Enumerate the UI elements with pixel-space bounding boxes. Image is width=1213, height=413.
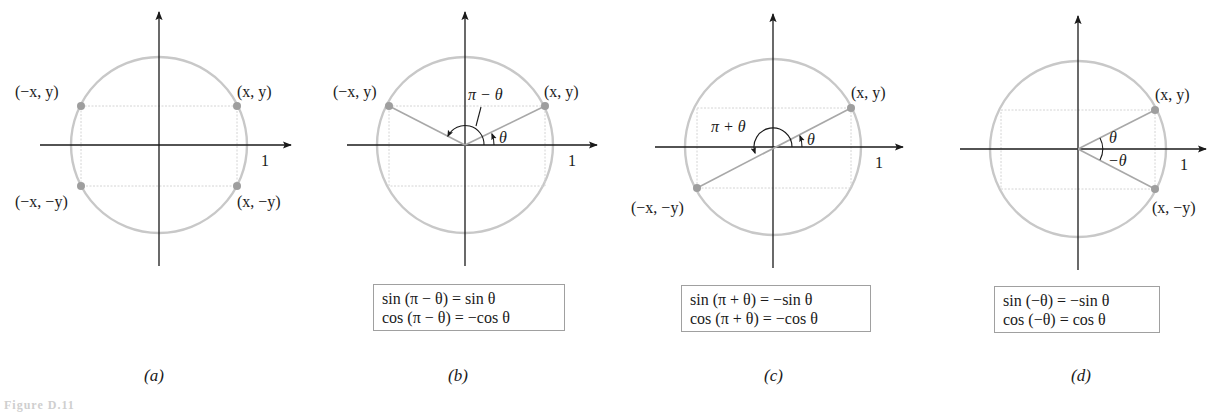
label-q3: (−x, −y) bbox=[631, 199, 684, 217]
panel-label-a: (a) bbox=[144, 366, 164, 386]
figure-caption: Figure D.11 bbox=[4, 398, 75, 413]
identity-sin: sin (π + θ) = −sin θ bbox=[690, 290, 862, 309]
point-q4 bbox=[233, 182, 241, 190]
sum-label: π + θ bbox=[711, 118, 746, 135]
axis-unit-label: 1 bbox=[568, 152, 576, 169]
panel-a: (x, y) (−x, y) (−x, −y) (x, −y) 1 bbox=[15, 12, 291, 266]
identity-box-d: sin (−θ) = −sin θ cos (−θ) = cos θ bbox=[994, 286, 1160, 333]
label-q4: (x, −y) bbox=[1152, 199, 1196, 217]
label-q2: (−x, y) bbox=[333, 83, 377, 101]
supplement-arc bbox=[448, 125, 484, 145]
theta-arc bbox=[492, 134, 494, 145]
point-q3 bbox=[693, 184, 701, 192]
identity-sin: sin (−θ) = −sin θ bbox=[1003, 291, 1151, 310]
identity-box-b: sin (π − θ) = sin θ cos (π − θ) = −cos θ bbox=[373, 284, 565, 331]
label-q3: (−x, −y) bbox=[15, 193, 68, 211]
identity-cos: cos (π + θ) = −cos θ bbox=[690, 309, 862, 328]
label-q4: (x, −y) bbox=[237, 193, 281, 211]
identity-sin: sin (π − θ) = sin θ bbox=[382, 289, 556, 308]
label-q1: (x, y) bbox=[544, 83, 579, 101]
label-q2: (−x, y) bbox=[15, 83, 59, 101]
axis-unit-label: 1 bbox=[261, 152, 269, 169]
panel-d: θ −θ (x, y) (x, −y) 1 bbox=[960, 16, 1206, 270]
axis-unit-label: 1 bbox=[1180, 156, 1188, 173]
point-q4 bbox=[1151, 185, 1159, 193]
theta-label: θ bbox=[807, 131, 815, 148]
supplement-label: π − θ bbox=[468, 86, 503, 103]
supplement-pointer bbox=[476, 107, 481, 126]
label-q1: (x, y) bbox=[851, 84, 886, 102]
panel-label-c: (c) bbox=[764, 366, 783, 386]
point-q3 bbox=[77, 182, 85, 190]
point-q2 bbox=[77, 102, 85, 110]
point-q2 bbox=[385, 102, 393, 110]
label-q1: (x, y) bbox=[1155, 86, 1190, 104]
point-q1 bbox=[233, 102, 241, 110]
identity-box-c: sin (π + θ) = −sin θ cos (π + θ) = −cos … bbox=[681, 285, 871, 332]
identity-cos: cos (π − θ) = −cos θ bbox=[382, 308, 556, 327]
identity-cos: cos (−θ) = cos θ bbox=[1003, 310, 1151, 329]
point-q1 bbox=[1151, 106, 1159, 114]
neg-theta-label: −θ bbox=[1108, 152, 1127, 169]
panel-label-b: (b) bbox=[448, 366, 468, 386]
label-q1: (x, y) bbox=[237, 83, 272, 101]
axis-unit-label: 1 bbox=[875, 154, 883, 171]
panel-c: θ π + θ (x, y) (−x, −y) 1 bbox=[631, 14, 903, 268]
panel-b: θ π − θ (x, y) (−x, y) 1 bbox=[333, 12, 597, 266]
theta-arc bbox=[800, 136, 802, 147]
point-q1 bbox=[541, 102, 549, 110]
ray-pi-minus-theta bbox=[389, 106, 465, 145]
point-q1 bbox=[847, 104, 855, 112]
theta-label: θ bbox=[499, 129, 507, 146]
panel-label-d: (d) bbox=[1071, 366, 1091, 386]
theta-label: θ bbox=[1109, 129, 1117, 146]
